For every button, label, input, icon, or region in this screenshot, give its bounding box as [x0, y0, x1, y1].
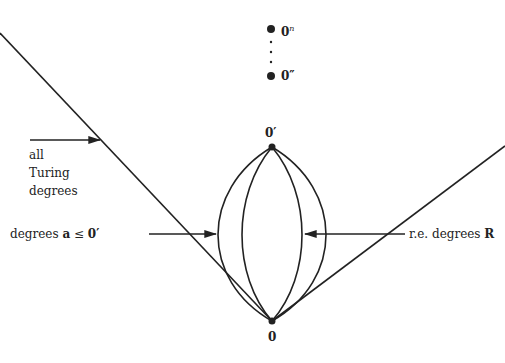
node-zero-n-jump	[267, 25, 275, 33]
label-zero: 0	[268, 330, 276, 344]
label-zero-n: 0n	[281, 22, 295, 39]
node-zero-double-jump	[267, 72, 275, 80]
ellipsis-dot	[270, 51, 272, 53]
inner-right-curve	[272, 147, 302, 321]
ellipsis-dot	[270, 61, 272, 63]
ellipsis-dot	[270, 41, 272, 43]
label-re-degrees: r.e. degrees R	[409, 227, 494, 241]
node-zero-jump	[269, 144, 276, 151]
label-all-turing-degrees: all Turing degrees	[29, 146, 78, 200]
label-zero-double-jump: 0″	[281, 69, 295, 83]
node-zero	[269, 318, 276, 325]
label-degrees-below-zero-jump: degrees a ≤ 0′	[10, 227, 99, 241]
outer-left-curve	[218, 147, 272, 321]
label-zero-jump: 0′	[265, 126, 277, 140]
